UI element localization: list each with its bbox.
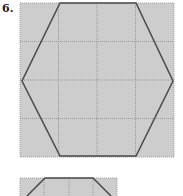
figures (0, 0, 183, 196)
trapezoid-figure (20, 178, 117, 196)
hexagon-figure (20, 3, 174, 157)
